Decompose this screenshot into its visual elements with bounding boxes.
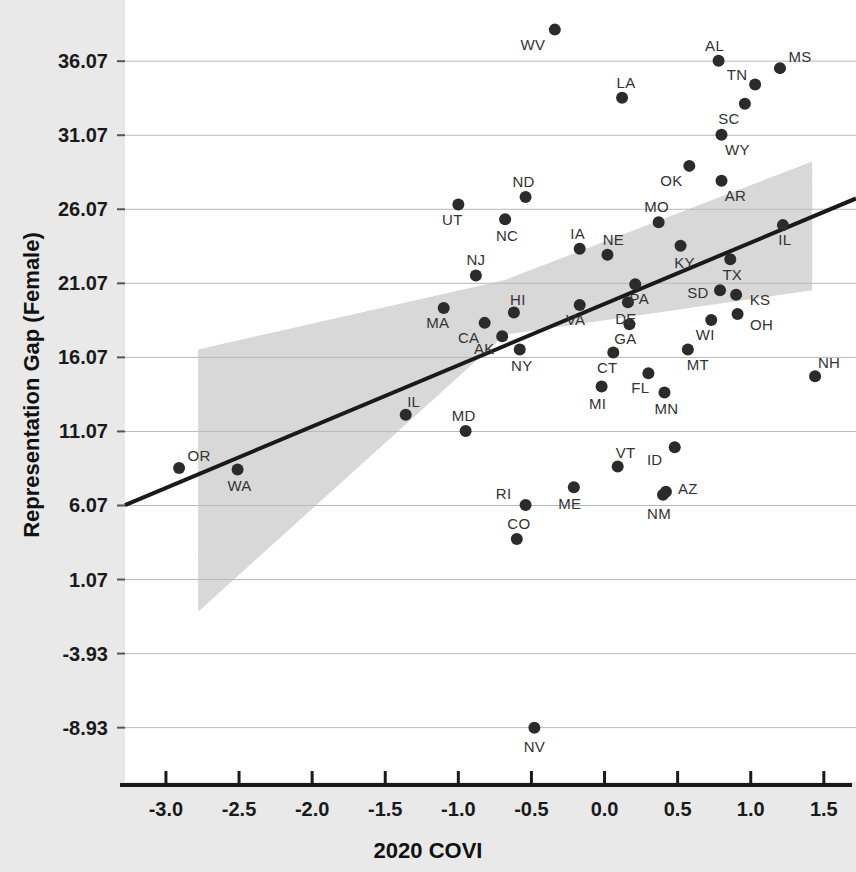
data-point-label: GA	[614, 330, 636, 347]
data-point-label: VA	[566, 311, 586, 328]
data-point-label: NV	[524, 737, 545, 754]
plot-canvas	[0, 0, 856, 872]
y-tick-label: -3.93	[8, 642, 108, 665]
x-tick-label: -2.0	[277, 798, 347, 821]
y-axis-title: Representation Gap (Female)	[19, 125, 45, 645]
data-point-label: AR	[725, 186, 746, 203]
data-point[interactable]	[714, 284, 726, 296]
data-point-label: OK	[660, 171, 682, 188]
data-point-label: IA	[570, 224, 585, 241]
x-tick-label: -1.0	[423, 798, 493, 821]
data-point[interactable]	[705, 314, 717, 326]
data-point-label: NE	[603, 230, 624, 247]
data-point[interactable]	[520, 191, 532, 203]
data-point[interactable]	[574, 299, 586, 311]
data-point[interactable]	[460, 425, 472, 437]
data-point[interactable]	[438, 302, 450, 314]
x-tick-label: 1.5	[789, 798, 856, 821]
y-tick-label: 36.07	[8, 50, 108, 73]
data-point-label: CO	[507, 515, 530, 532]
x-tick-label: -0.5	[496, 798, 566, 821]
data-point[interactable]	[669, 441, 681, 453]
data-point-label: IL	[778, 231, 791, 248]
data-point-label: AL	[705, 36, 724, 53]
data-point-label: FL	[631, 379, 649, 396]
x-tick-label: -2.5	[204, 798, 274, 821]
data-point[interactable]	[715, 175, 727, 187]
data-point-label: LA	[617, 73, 636, 90]
data-point-label: RI	[496, 485, 512, 502]
scatter-plot-figure: 36.0731.0726.0721.0716.0711.076.071.07-3…	[0, 0, 856, 872]
data-point[interactable]	[653, 216, 665, 228]
data-point[interactable]	[642, 367, 654, 379]
data-point[interactable]	[499, 213, 511, 225]
data-point-label: IL	[407, 392, 420, 409]
data-point[interactable]	[528, 722, 540, 734]
data-point-label: TX	[722, 266, 742, 283]
data-point[interactable]	[601, 249, 613, 261]
data-point[interactable]	[173, 462, 185, 474]
data-point[interactable]	[232, 463, 244, 475]
data-point-label: PA	[629, 290, 649, 307]
data-point[interactable]	[675, 240, 687, 252]
data-point-label: MA	[426, 314, 449, 331]
data-point-label: TN	[727, 66, 748, 83]
data-point[interactable]	[683, 160, 695, 172]
data-point-label: NM	[647, 504, 671, 521]
data-point-label: MT	[687, 355, 709, 372]
data-point[interactable]	[452, 198, 464, 210]
data-point-label: KS	[750, 290, 771, 307]
data-point[interactable]	[682, 344, 694, 356]
data-point-label: DE	[615, 310, 636, 327]
data-point-label: ND	[512, 172, 534, 189]
data-point[interactable]	[732, 308, 744, 320]
data-point[interactable]	[715, 129, 727, 141]
data-point-label: OH	[750, 315, 773, 332]
data-point[interactable]	[607, 346, 619, 358]
data-point[interactable]	[514, 344, 526, 356]
data-point[interactable]	[508, 307, 520, 319]
data-point[interactable]	[657, 489, 669, 501]
data-point[interactable]	[713, 55, 725, 67]
x-tick-label: 0.5	[643, 798, 713, 821]
data-point-label: NC	[496, 227, 518, 244]
data-point-label: OR	[188, 447, 211, 464]
data-point-label: MN	[655, 400, 679, 417]
data-point[interactable]	[777, 219, 789, 231]
data-point-label: MD	[452, 406, 476, 423]
data-point-label: UT	[442, 211, 463, 228]
data-point[interactable]	[520, 499, 532, 511]
data-point-label: AK	[474, 340, 495, 357]
data-point[interactable]	[616, 92, 628, 104]
data-point-label: AZ	[678, 479, 698, 496]
data-point[interactable]	[574, 243, 586, 255]
data-point[interactable]	[596, 381, 608, 393]
data-point-label: NY	[511, 356, 532, 373]
data-point[interactable]	[739, 98, 751, 110]
x-axis-title: 2020 COVI	[0, 838, 856, 864]
data-point[interactable]	[730, 289, 742, 301]
data-point[interactable]	[479, 317, 491, 329]
data-point[interactable]	[809, 370, 821, 382]
data-point[interactable]	[549, 24, 561, 36]
x-tick-label: 0.0	[570, 798, 640, 821]
data-point[interactable]	[724, 253, 736, 265]
y-tick-label: -8.93	[8, 716, 108, 739]
data-point-label: CT	[597, 359, 618, 376]
data-point-label: KY	[674, 253, 695, 270]
data-point[interactable]	[629, 278, 641, 290]
data-point[interactable]	[470, 269, 482, 281]
data-point[interactable]	[400, 409, 412, 421]
data-point[interactable]	[612, 461, 624, 473]
data-point-label: NJ	[466, 251, 485, 268]
data-point[interactable]	[774, 62, 786, 74]
data-point-label: ID	[647, 451, 663, 468]
data-point-label: HI	[510, 290, 526, 307]
data-point[interactable]	[511, 533, 523, 545]
data-point[interactable]	[749, 78, 761, 90]
data-point[interactable]	[496, 330, 508, 342]
data-point[interactable]	[568, 481, 580, 493]
data-point-label: SC	[718, 109, 739, 126]
data-point[interactable]	[658, 386, 670, 398]
data-point-label: WA	[227, 477, 251, 494]
